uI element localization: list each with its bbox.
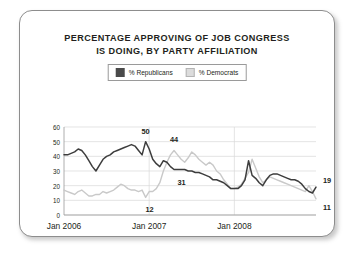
chart-card: PERCENTAGE APPROVING OF JOB CONGRESS IS … xyxy=(19,10,335,237)
data-point-label: 44 xyxy=(170,135,178,144)
data-point-label: 19 xyxy=(323,176,331,185)
y-tick-label: 50 xyxy=(40,138,60,145)
x-tick-label: Jan 2008 xyxy=(217,221,251,231)
plot-area: 0102030405060 Jan 2006Jan 2007Jan 2008 5… xyxy=(20,11,334,236)
data-point-label: 50 xyxy=(142,126,150,135)
y-tick-label: 0 xyxy=(40,212,60,219)
x-tick-label: Jan 2007 xyxy=(132,221,166,231)
x-tick-label: Jan 2006 xyxy=(47,221,81,231)
data-point-label: 31 xyxy=(177,177,185,186)
y-tick-label: 40 xyxy=(40,153,60,160)
y-tick-label: 20 xyxy=(40,182,60,189)
data-point-label: 12 xyxy=(146,205,154,214)
y-tick-label: 30 xyxy=(40,168,60,175)
y-tick-label: 60 xyxy=(40,124,60,131)
chart-svg xyxy=(20,11,335,237)
y-tick-label: 10 xyxy=(40,197,60,204)
data-point-label: 11 xyxy=(323,202,331,211)
